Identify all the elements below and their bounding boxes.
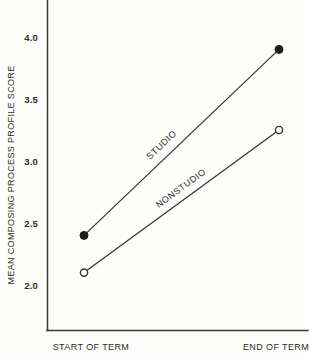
y-tick-label: 3.5	[24, 94, 38, 105]
y-tick-label: 4.0	[24, 32, 38, 43]
series-label-studio: STUDIO	[144, 128, 178, 161]
x-category-label: END OF TERM	[243, 342, 309, 352]
data-point-open-circle-nonstudio	[275, 126, 282, 133]
y-tick-label: 3.0	[24, 156, 38, 167]
chart-data-layer: 4.03.53.02.52.0START OF TERMEND OF TERMS…	[24, 32, 309, 353]
data-point-filled-circle-studio	[275, 45, 283, 53]
y-axis-title: MEAN COMPOSING PROCESS PROFILE SCORE	[6, 65, 16, 284]
series-line-studio	[84, 49, 279, 235]
line-chart-figure: MEAN COMPOSING PROCESS PROFILE SCORE 4.0…	[0, 0, 310, 361]
data-point-filled-circle-studio	[80, 231, 88, 239]
series-line-nonstudio	[84, 130, 279, 273]
data-point-open-circle-nonstudio	[80, 269, 87, 276]
y-tick-label: 2.5	[24, 218, 38, 229]
x-category-label: START OF TERM	[53, 342, 130, 352]
y-tick-label: 2.0	[24, 280, 38, 291]
chart-canvas: MEAN COMPOSING PROCESS PROFILE SCORE 4.0…	[0, 0, 310, 361]
